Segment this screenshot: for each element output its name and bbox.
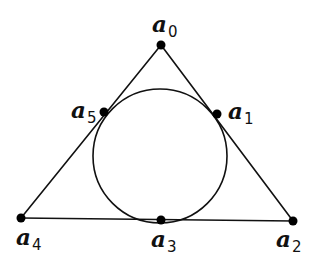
label-a4: a4 xyxy=(16,225,41,248)
label-subscript: 1 xyxy=(244,110,254,128)
point-a3-marker xyxy=(157,216,166,225)
label-a3: a3 xyxy=(151,227,176,250)
label-letter: a xyxy=(16,223,31,250)
label-letter: a xyxy=(71,96,86,123)
point-a0-marker xyxy=(157,41,166,50)
label-letter: a xyxy=(151,225,166,252)
label-subscript: 3 xyxy=(167,238,177,256)
label-a0: a0 xyxy=(152,12,177,35)
label-a5: a5 xyxy=(71,98,96,121)
triangle-edge-a4-a0 xyxy=(21,45,161,218)
label-subscript: 0 xyxy=(168,23,178,41)
inscribed-circle xyxy=(93,89,227,223)
label-letter: a xyxy=(276,225,291,252)
triangle-incircle-diagram xyxy=(0,0,317,262)
label-letter: a xyxy=(152,10,167,37)
label-subscript: 5 xyxy=(87,109,97,127)
label-subscript: 2 xyxy=(292,238,302,256)
label-letter: a xyxy=(228,97,243,124)
point-a5-marker xyxy=(100,108,109,117)
point-a1-marker xyxy=(213,110,222,119)
triangle-edge-a0-a2 xyxy=(161,45,293,221)
point-a4-marker xyxy=(17,214,26,223)
label-a1: a1 xyxy=(228,99,253,122)
point-markers xyxy=(17,41,298,226)
label-subscript: 4 xyxy=(32,236,42,254)
label-a2: a2 xyxy=(276,227,301,250)
